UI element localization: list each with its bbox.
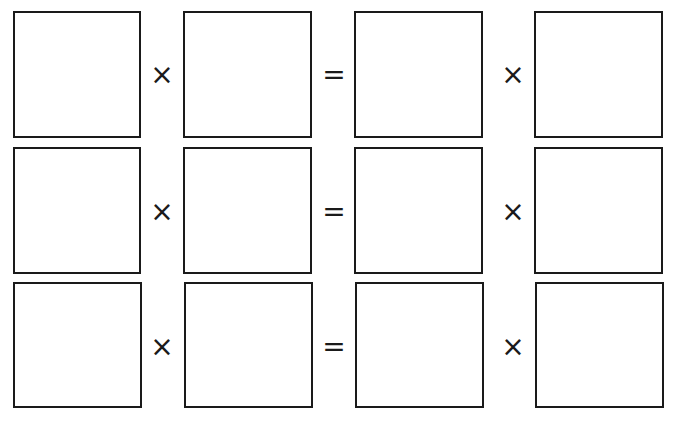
answer-box-r3-c3[interactable] bbox=[355, 282, 484, 408]
answer-box-r3-c1[interactable] bbox=[13, 282, 142, 408]
answer-box-r2-c4[interactable] bbox=[534, 147, 663, 274]
equals-sign-r2: = bbox=[319, 198, 349, 226]
equals-sign-r3: = bbox=[319, 333, 349, 361]
answer-box-r1-c1[interactable] bbox=[13, 11, 141, 138]
multiply-sign-r3-left: × bbox=[147, 333, 177, 361]
answer-box-r2-c2[interactable] bbox=[183, 147, 312, 274]
multiply-sign-r2-right: × bbox=[498, 198, 528, 226]
answer-box-r1-c3[interactable] bbox=[354, 11, 483, 138]
answer-box-r3-c4[interactable] bbox=[535, 282, 664, 408]
multiply-sign-r2-left: × bbox=[147, 198, 177, 226]
answer-box-r1-c2[interactable] bbox=[183, 11, 312, 138]
answer-box-r2-c3[interactable] bbox=[354, 147, 483, 274]
equals-sign-r1: = bbox=[319, 61, 349, 89]
multiply-sign-r1-right: × bbox=[498, 61, 528, 89]
answer-box-r3-c2[interactable] bbox=[184, 282, 313, 408]
multiply-sign-r1-left: × bbox=[147, 61, 177, 89]
multiply-sign-r3-right: × bbox=[498, 333, 528, 361]
answer-box-r1-c4[interactable] bbox=[534, 11, 663, 138]
answer-box-r2-c1[interactable] bbox=[13, 147, 141, 274]
